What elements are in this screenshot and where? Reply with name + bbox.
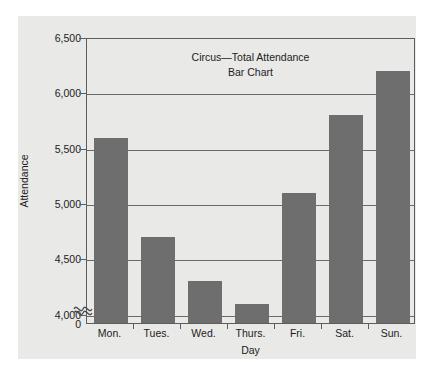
gridline [87, 39, 414, 40]
bar [94, 138, 128, 323]
y-axis-tick-mark [79, 204, 86, 205]
x-axis-tick-mark [180, 324, 181, 329]
bar [376, 71, 410, 323]
x-axis-tick-mark [133, 324, 134, 329]
chart-title: Circus—Total Attendance Bar Chart [86, 50, 415, 80]
x-axis-tick-label: Tues. [133, 327, 180, 339]
bar [235, 304, 269, 323]
y-axis-tick-label: 4,500 [21, 254, 81, 265]
x-axis-tick-mark [274, 324, 275, 329]
x-axis-tick-label: Mon. [86, 327, 133, 339]
x-axis-tick-mark [321, 324, 322, 329]
gridline [87, 150, 414, 151]
x-axis-tick-mark [368, 324, 369, 329]
bar [141, 237, 175, 323]
y-axis-tick-mark [79, 149, 86, 150]
chart-title-line2: Bar Chart [86, 65, 415, 80]
y-axis-tick-label: 5,500 [21, 143, 81, 154]
y-axis-tick-label: 6,000 [21, 88, 81, 99]
y-axis-zero-label: 0 [21, 318, 81, 330]
y-axis-title: Attendance [18, 154, 30, 207]
x-axis-tick-label: Sun. [368, 327, 415, 339]
x-axis-tick-label: Sat. [321, 327, 368, 339]
gridline [87, 260, 414, 261]
x-axis-tick-label: Fri. [274, 327, 321, 339]
x-axis-title: Day [86, 344, 415, 356]
y-axis-tick-mark [79, 38, 86, 39]
chart-title-line1: Circus—Total Attendance [86, 50, 415, 65]
y-axis-tick-label: 5,000 [21, 199, 81, 210]
y-axis-tick-mark [79, 259, 86, 260]
x-axis-tick-mark [227, 324, 228, 329]
y-axis-tick-mark [79, 93, 86, 94]
chart-screenshot: 6,5006,0005,5005,0004,5004,000 Circus—To… [0, 0, 433, 376]
bar [329, 115, 363, 323]
gridline [87, 205, 414, 206]
y-axis-tick-label: 6,500 [21, 33, 81, 44]
x-axis-tick-label: Wed. [180, 327, 227, 339]
axis-break-icon [72, 296, 94, 318]
bar [188, 281, 222, 323]
bar [282, 193, 316, 323]
gridline [87, 94, 414, 95]
plot-area [86, 38, 415, 324]
x-axis-tick-label: Thurs. [227, 327, 274, 339]
